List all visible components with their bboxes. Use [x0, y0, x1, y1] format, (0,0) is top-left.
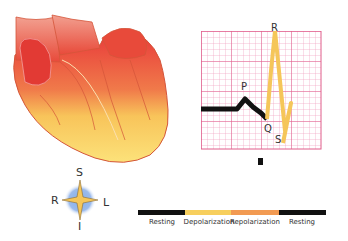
compass-icon	[60, 180, 100, 220]
phase-label: Repolarization	[230, 218, 280, 226]
phase-label: Resting	[289, 218, 315, 226]
heart-illustration	[0, 0, 200, 170]
phase-segment-resting	[138, 210, 185, 215]
phase-segment-depolarization	[185, 210, 231, 215]
ecg-label-q: Q	[264, 123, 272, 134]
phase-segment-resting-2	[279, 210, 326, 215]
ecg-label-s: S	[275, 134, 281, 145]
ecg-label-r: R	[271, 22, 278, 33]
phase-timeline: Resting Depolarization Repolarization Re…	[138, 210, 326, 234]
phase-label: Depolarization	[184, 218, 235, 226]
phase-label: Resting	[149, 218, 175, 226]
compass-label-superior: S	[76, 166, 83, 179]
compass-label-inferior: I	[78, 220, 81, 233]
ecg-grid	[201, 31, 322, 150]
phase-segment-repolarization	[231, 210, 279, 215]
time-marker	[258, 158, 263, 165]
ecg-label-p: P	[241, 81, 247, 92]
compass-label-left: L	[103, 196, 109, 209]
compass-label-right: R	[51, 194, 59, 207]
